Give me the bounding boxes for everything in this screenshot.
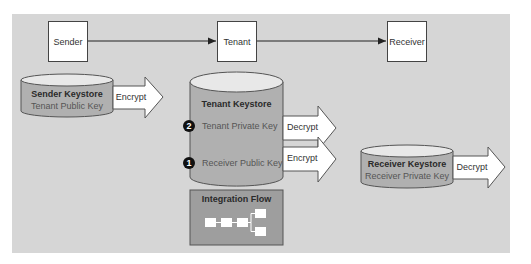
receiver-keystore-title: Receiver Keystore — [361, 159, 453, 169]
receiver-private-key: Receiver Private Key — [361, 171, 453, 181]
sender-encrypt-label: Encrypt — [115, 92, 147, 102]
tenant-keystore-title: Tenant Keystore — [190, 99, 283, 109]
step-1-badge: 1 — [183, 157, 195, 169]
receiver-node: Receiver — [387, 21, 427, 62]
tenant-decrypt-label: Decrypt — [287, 122, 317, 132]
step-2-badge: 2 — [183, 120, 195, 132]
tenant-private-key: Tenant Private Key — [202, 121, 278, 131]
tenant-encrypt-label: Encrypt — [287, 153, 317, 163]
tenant-node: Tenant — [217, 21, 257, 62]
sender-keystore-key: Tenant Public Key — [21, 101, 113, 111]
receiver-public-key: Receiver Public Key — [202, 158, 283, 168]
integration-flow-title: Integration Flow — [190, 194, 283, 204]
receiver-decrypt-label: Decrypt — [456, 162, 488, 172]
sender-keystore-title: Sender Keystore — [21, 89, 113, 99]
sender-node: Sender — [48, 21, 88, 62]
